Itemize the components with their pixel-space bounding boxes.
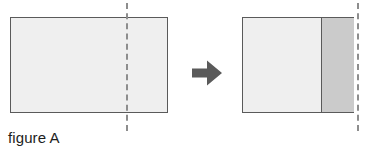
fold-line-dashed-after (357, 3, 359, 131)
figure-canvas: figure A (0, 0, 370, 155)
figure-caption: figure A (8, 130, 60, 145)
folded-sheet-rectangle (242, 17, 354, 113)
folded-over-flap-region (321, 18, 354, 112)
